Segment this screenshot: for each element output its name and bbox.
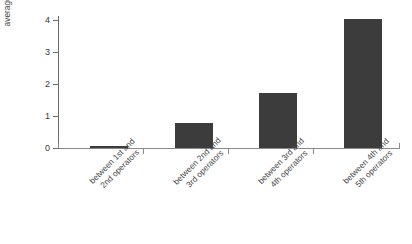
- y-axis-title-line-1: average annual increase in: [3, 0, 12, 26]
- y-axis-title: average annual increase in subscription: [2, 0, 32, 44]
- bar-chart: average annual increase in subscription …: [0, 0, 412, 244]
- y-tick-label-2: 2: [36, 79, 50, 89]
- y-tick-0: [53, 148, 59, 149]
- bar-between-4th-and-5th-operators: [344, 19, 382, 148]
- y-axis-line: [58, 16, 59, 149]
- y-tick-4: [53, 20, 59, 21]
- bar-between-3rd-and-4th-operators: [259, 93, 297, 148]
- y-tick-label-0: 0: [36, 143, 50, 153]
- y-tick-3: [53, 52, 59, 53]
- y-tick-1: [53, 116, 59, 117]
- y-tick-label-4: 4: [36, 15, 50, 25]
- x-axis-label-0: between 1st and 2nd operators: [76, 125, 156, 205]
- y-tick-label-1: 1: [36, 111, 50, 121]
- y-tick-label-3: 3: [36, 47, 50, 57]
- y-tick-2: [53, 84, 59, 85]
